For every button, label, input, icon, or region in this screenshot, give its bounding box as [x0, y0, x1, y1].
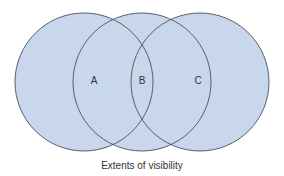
label-c: C	[194, 75, 201, 86]
label-a: A	[91, 75, 98, 86]
venn-diagram: A B C	[0, 0, 284, 176]
diagram-caption: Extents of visibility	[0, 160, 284, 171]
label-b: B	[139, 75, 146, 86]
